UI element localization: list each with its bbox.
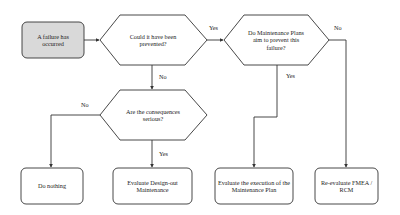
edge-label-prevented-no: No bbox=[159, 73, 167, 80]
node-q-serious-label: Are the consequences serious? bbox=[122, 90, 184, 140]
node-reevaluate-label: Re-evaluate FMEA / RCM bbox=[320, 168, 373, 204]
node-do-nothing-label: Do nothing bbox=[21, 168, 83, 204]
node-start-label: A failure has occurred bbox=[26, 22, 80, 58]
edge-label-serious-yes: Yes bbox=[159, 150, 168, 157]
node-q-plans-label: Do Maintenance Plans aim to prevent this… bbox=[246, 15, 306, 65]
node-eval-execution-label: Evaluate the execution of the Maintenanc… bbox=[217, 168, 291, 204]
node-design-out-label: Evaluate Design-out Maintenance bbox=[118, 168, 187, 204]
edge-plans-no bbox=[329, 40, 346, 167]
edge-label-plans-yes: Yes bbox=[286, 72, 295, 79]
edge-label-prevented-yes: Yes bbox=[209, 24, 218, 31]
edge-serious-no bbox=[51, 115, 100, 167]
edge-plans-yes bbox=[254, 65, 277, 167]
edge-label-serious-no: No bbox=[81, 101, 89, 108]
edge-label-plans-no: No bbox=[334, 24, 342, 31]
node-q-prevented-label: Could it have been prevented? bbox=[118, 15, 188, 65]
